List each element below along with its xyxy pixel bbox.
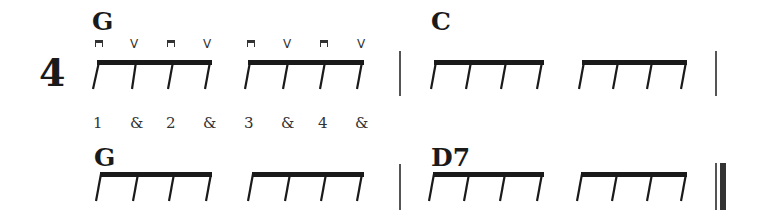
chord-label-g: G: [94, 145, 115, 170]
beam: [252, 172, 364, 177]
barline: [399, 51, 401, 96]
count-label: 4: [318, 116, 328, 131]
count-label: &: [281, 116, 294, 131]
beam: [248, 60, 364, 65]
count-label: &: [355, 116, 368, 131]
final-barline-thick: [720, 163, 726, 210]
beam: [97, 60, 212, 65]
beam: [581, 172, 687, 177]
count-label: 1: [93, 116, 103, 131]
final-barline-thin: [715, 163, 717, 210]
rhythm-notation: [0, 0, 761, 222]
beam: [100, 172, 212, 177]
count-label: &: [203, 116, 216, 131]
chord-label-d7: D7: [431, 145, 470, 170]
beam: [582, 60, 687, 65]
count-label: &: [130, 116, 143, 131]
barline: [715, 51, 717, 96]
count-label: 3: [244, 116, 254, 131]
barline: [399, 164, 401, 210]
beam: [434, 60, 544, 65]
count-label: 2: [166, 116, 176, 131]
beam: [433, 172, 544, 177]
